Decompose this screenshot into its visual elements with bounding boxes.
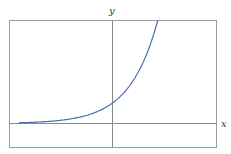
chart: y x: [0, 0, 231, 154]
exponential-curve: [19, 21, 158, 123]
y-axis-label: y: [108, 5, 115, 16]
x-axis-label: x: [221, 118, 227, 129]
